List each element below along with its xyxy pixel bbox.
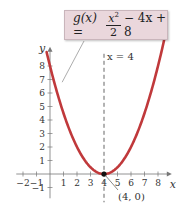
y-tick-label: 1 bbox=[39, 156, 45, 166]
vertex-label: (4, 0) bbox=[118, 191, 145, 202]
x-tick-label: −2 bbox=[16, 178, 29, 188]
y-tick-label: 7 bbox=[39, 75, 45, 85]
x-axis-label: x bbox=[170, 178, 177, 191]
y-tick-label: 3 bbox=[39, 129, 45, 139]
x-tick-label: 8 bbox=[155, 178, 161, 188]
y-tick-label: −1 bbox=[32, 183, 45, 193]
equation-callout: g(x) = x2 2 − 4x + 8 bbox=[64, 10, 168, 40]
y-axis-arrow-icon bbox=[48, 47, 53, 52]
x-tick-label: 6 bbox=[128, 178, 134, 188]
y-axis-label: y bbox=[38, 42, 46, 55]
callout-line bbox=[62, 41, 84, 82]
equation-lhs: g(x) = bbox=[73, 11, 97, 39]
equation-rhs: − 4x + 8 bbox=[124, 11, 167, 39]
y-tick-label: 4 bbox=[39, 115, 45, 125]
axis-of-symmetry-label: x = 4 bbox=[107, 51, 134, 62]
x-tick-label: 7 bbox=[142, 178, 148, 188]
x-tick-label: 2 bbox=[74, 178, 80, 188]
equation-fraction: x2 2 bbox=[106, 12, 121, 38]
x-axis-arrow-icon bbox=[167, 172, 172, 177]
y-tick-label: 8 bbox=[39, 61, 45, 71]
y-tick-label: 2 bbox=[39, 142, 45, 152]
fraction-exponent: 2 bbox=[114, 11, 118, 19]
x-tick-label: 1 bbox=[61, 178, 67, 188]
y-tick-label: 6 bbox=[39, 88, 45, 98]
x-tick-label: 5 bbox=[115, 178, 121, 188]
x-tick-label: 3 bbox=[88, 178, 94, 188]
y-tick-label: 5 bbox=[39, 102, 45, 112]
fraction-denominator: 2 bbox=[110, 26, 117, 38]
callout-pointer-line bbox=[62, 41, 84, 82]
